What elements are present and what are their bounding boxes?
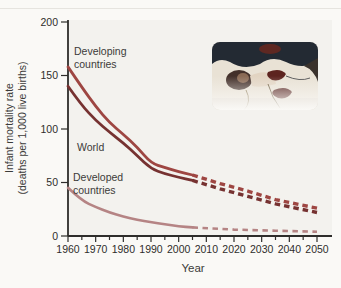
x-tick-label: 2050 — [305, 243, 329, 255]
y-axis-title: Infant mortality rate (deaths per 1,000 … — [3, 20, 29, 236]
photo-bottom-fade — [212, 76, 318, 110]
label-world: World — [77, 141, 104, 154]
x-tick-label: 1980 — [112, 243, 136, 255]
x-tick-label: 1990 — [139, 243, 163, 255]
x-tick-label: 2010 — [195, 243, 219, 255]
y-tick-label: 150 — [40, 69, 58, 81]
photo-red-detail — [259, 44, 281, 54]
infant-mortality-figure: 0501001502001960197019801990200020102020… — [0, 0, 341, 288]
x-tick-label: 2000 — [167, 243, 191, 255]
y-tick-label: 50 — [46, 176, 58, 188]
x-tick-label: 2030 — [250, 243, 274, 255]
y-axis-title-line1: Infant mortality rate — [3, 20, 16, 236]
x-tick-label: 2040 — [278, 243, 302, 255]
label-developed-countries: Developed countries — [73, 171, 123, 196]
x-tick-label: 2020 — [222, 243, 246, 255]
label-developing-countries: Developing countries — [74, 45, 127, 70]
x-axis-title: Year — [140, 262, 246, 274]
y-tick-label: 100 — [40, 123, 58, 135]
y-tick-label: 200 — [40, 16, 58, 28]
y-tick-label: 0 — [52, 230, 58, 242]
x-tick-label: 1970 — [84, 243, 108, 255]
inset-photo — [212, 42, 318, 110]
x-tick-label: 1960 — [56, 243, 80, 255]
y-axis-title-line2: (deaths per 1,000 live births) — [16, 20, 29, 236]
